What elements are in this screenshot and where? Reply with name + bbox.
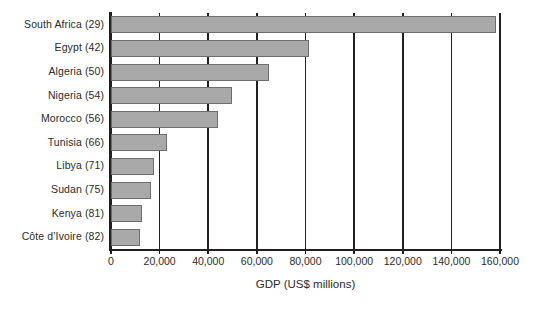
category-label: Morocco (56) xyxy=(0,113,104,124)
x-tick-label: 80,000 xyxy=(289,255,321,267)
x-tick-label: 160,000 xyxy=(481,255,519,267)
bar xyxy=(111,87,232,104)
x-tickmark xyxy=(305,249,307,254)
x-tick-label: 60,000 xyxy=(241,255,273,267)
bar xyxy=(111,16,496,33)
category-label: Nigeria (54) xyxy=(0,90,104,101)
category-label: Sudan (75) xyxy=(0,184,104,195)
plot-area xyxy=(111,13,500,249)
x-tickmark xyxy=(110,249,112,254)
gdp-bar-chart: South Africa (29)Egypt (42)Algeria (50)N… xyxy=(0,0,534,311)
x-tick-label: 140,000 xyxy=(432,255,470,267)
category-label: Egypt (42) xyxy=(0,42,104,53)
x-tickmark xyxy=(207,249,209,254)
category-label: Côte d’Ivoire (82) xyxy=(0,231,104,242)
x-tickmark xyxy=(353,249,355,254)
x-tick-label: 100,000 xyxy=(335,255,373,267)
category-label: Tunisia (66) xyxy=(0,137,104,148)
bar xyxy=(111,158,154,175)
x-tick-label: 40,000 xyxy=(192,255,224,267)
x-tickmark xyxy=(256,249,258,254)
x-tickmark xyxy=(159,249,161,254)
category-label: Libya (71) xyxy=(0,160,104,171)
x-tickmark xyxy=(499,249,501,254)
bar xyxy=(111,40,309,57)
category-label: Kenya (81) xyxy=(0,208,104,219)
bar xyxy=(111,182,151,199)
x-tick-label: 120,000 xyxy=(384,255,422,267)
bar xyxy=(111,134,167,151)
bar xyxy=(111,64,269,81)
bars-layer xyxy=(111,13,500,249)
x-tick-labels: 020,00040,00060,00080,000100,000120,0001… xyxy=(0,255,534,271)
category-label: Algeria (50) xyxy=(0,66,104,77)
x-tickmark xyxy=(451,249,453,254)
bar xyxy=(111,111,218,128)
bar xyxy=(111,205,142,222)
x-axis-title: GDP (US$ millions) xyxy=(111,278,500,290)
category-axis: South Africa (29)Egypt (42)Algeria (50)N… xyxy=(0,12,104,250)
x-tick-label: 0 xyxy=(108,255,114,267)
x-tick-label: 20,000 xyxy=(144,255,176,267)
x-tickmark xyxy=(402,249,404,254)
category-label: South Africa (29) xyxy=(0,19,104,30)
bar xyxy=(111,229,140,246)
